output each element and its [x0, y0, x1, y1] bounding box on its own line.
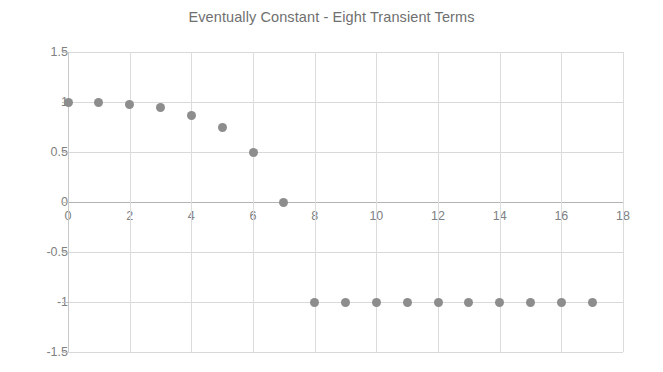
data-point [434, 298, 443, 307]
gridline-vertical [191, 52, 192, 352]
data-point [526, 298, 535, 307]
y-tick-label: -0.5 [0, 245, 76, 259]
data-point [464, 298, 473, 307]
data-point [310, 298, 319, 307]
chart-title: Eventually Constant - Eight Transient Te… [0, 9, 663, 25]
chart-container: Eventually Constant - Eight Transient Te… [0, 0, 663, 372]
data-point [557, 298, 566, 307]
data-point [495, 298, 504, 307]
zero-axis-line [68, 202, 623, 203]
data-point [403, 298, 412, 307]
y-tick-label: -1 [0, 295, 76, 309]
data-point [64, 98, 73, 107]
y-tick-label: -1.5 [0, 345, 76, 359]
gridline-horizontal [68, 352, 623, 353]
gridline-vertical [623, 52, 624, 352]
y-tick-label: 1.5 [0, 45, 76, 59]
gridline-horizontal [68, 102, 623, 103]
gridline-horizontal [68, 152, 623, 153]
data-point [279, 198, 288, 207]
gridline-vertical [130, 52, 131, 352]
data-point [341, 298, 350, 307]
data-point [187, 111, 196, 120]
data-point [588, 298, 597, 307]
data-point [156, 103, 165, 112]
gridline-vertical [561, 52, 562, 352]
data-point [249, 148, 258, 157]
gridline-horizontal [68, 52, 623, 53]
y-tick-label: 0.5 [0, 145, 76, 159]
gridline-vertical [438, 52, 439, 352]
data-point [125, 100, 134, 109]
gridline-vertical [376, 52, 377, 352]
data-point [94, 98, 103, 107]
plot-area [68, 52, 623, 352]
gridline-vertical [253, 52, 254, 352]
gridline-vertical [315, 52, 316, 352]
gridline-horizontal [68, 252, 623, 253]
gridline-vertical [500, 52, 501, 352]
data-point [372, 298, 381, 307]
y-tick-label: 0 [0, 195, 76, 209]
data-point [218, 123, 227, 132]
